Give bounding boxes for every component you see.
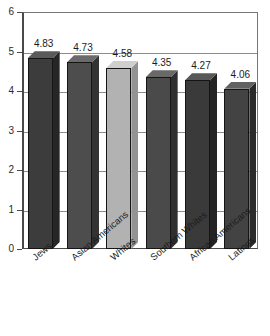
x-tick-label: Latinos <box>226 234 257 262</box>
bar-chart: 0123456 JewsAsian AmericansWhitesSouther… <box>0 0 270 336</box>
bar-value-label: 4.58 <box>101 49 143 59</box>
x-tick-label: Whites <box>108 235 137 262</box>
x-tick-label: Jews <box>30 240 54 262</box>
bar-value-label: 4.35 <box>141 58 183 68</box>
bar-value-label: 4.27 <box>180 61 222 71</box>
bar-value-label: 4.73 <box>62 43 104 53</box>
footer-clip <box>0 328 270 336</box>
bar-value-label: 4.83 <box>23 39 65 49</box>
bar-value-label: 4.06 <box>219 70 261 80</box>
